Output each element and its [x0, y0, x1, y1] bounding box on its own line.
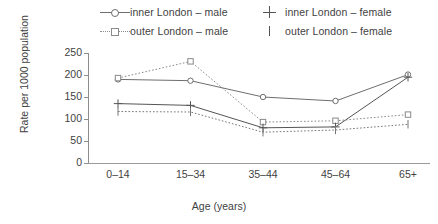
- data-point-circle: [333, 98, 338, 103]
- data-point-circle: [188, 78, 193, 83]
- data-point-square: [115, 75, 120, 80]
- data-point-square: [333, 118, 338, 123]
- chart-figure: inner London – male inner London – femal…: [0, 0, 438, 224]
- data-point-circle: [260, 94, 265, 99]
- chart-plot-area: [0, 0, 438, 224]
- data-point-square: [188, 59, 193, 64]
- series-line-open-square: [118, 61, 408, 122]
- data-point-square: [405, 112, 410, 117]
